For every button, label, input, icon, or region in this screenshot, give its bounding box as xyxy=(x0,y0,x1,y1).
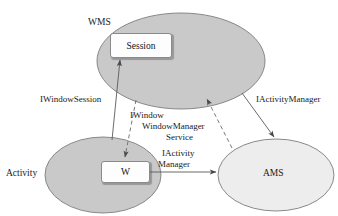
edge-label-iwindow: IWindow xyxy=(130,110,164,121)
diagram-canvas: WMS Activity AMS Session W IWindowSessio… xyxy=(0,0,338,216)
edge-windowmanagerservice xyxy=(207,99,232,148)
edge-label-manager: Manager xyxy=(158,159,190,170)
ellipse-wms xyxy=(97,13,265,109)
edge-label-iactivitymanager: IActivityManager xyxy=(256,94,320,105)
edge-label-service: Service xyxy=(166,132,193,143)
label-ams: AMS xyxy=(263,168,284,178)
edge-label-iwindowsession: IWindowSession xyxy=(40,94,101,105)
box-session-label: Session xyxy=(126,41,155,51)
box-session: Session xyxy=(110,33,172,58)
edge-label-iactivity: IActivity xyxy=(162,148,195,159)
label-activity: Activity xyxy=(6,168,37,178)
label-wms: WMS xyxy=(88,17,111,27)
edge-label-windowmanager: WindowManager xyxy=(142,121,205,132)
box-w-label: W xyxy=(121,167,130,177)
box-w: W xyxy=(101,161,150,183)
